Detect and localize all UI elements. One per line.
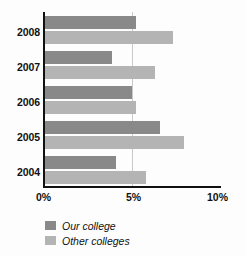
year-label-2007: 2007 (2, 61, 40, 73)
year-label-2008: 2008 (2, 26, 40, 38)
legend-item-other-colleges: Other colleges (45, 234, 130, 247)
category-axis: 2008 2007 2006 2005 2004 (0, 12, 40, 188)
bar-group-2008 (43, 15, 221, 45)
legend-swatch-other-colleges (45, 236, 56, 245)
year-label-2006: 2006 (2, 96, 40, 108)
bar-our-college-2007 (43, 51, 112, 64)
bar-our-college-2004 (43, 156, 116, 169)
value-axis: 0% 5% 10% (0, 191, 246, 207)
legend-swatch-our-college (45, 221, 56, 230)
bar-other-colleges-2004 (43, 171, 146, 184)
legend-label-our-college: Our college (62, 220, 116, 232)
year-label-2005: 2005 (2, 131, 40, 143)
bar-our-college-2008 (43, 16, 136, 29)
bar-group-2006 (43, 85, 221, 115)
bar-our-college-2005 (43, 121, 160, 134)
chart-legend: Our college Other colleges (45, 219, 130, 249)
bar-group-2007 (43, 50, 221, 80)
bar-other-colleges-2005 (43, 136, 184, 149)
x-tick-label-0: 0% (36, 191, 51, 203)
bar-other-colleges-2007 (43, 66, 155, 79)
bar-group-2004 (43, 155, 221, 185)
plot-area (43, 12, 221, 188)
bar-chart-figure: 2008 2007 2006 2005 2004 (0, 0, 246, 256)
x-tick-label-10: 10% (207, 191, 228, 203)
x-axis-line (43, 186, 221, 188)
legend-item-our-college: Our college (45, 219, 130, 232)
year-label-2004: 2004 (2, 166, 40, 178)
bar-our-college-2006 (43, 86, 132, 99)
legend-label-other-colleges: Other colleges (62, 235, 130, 247)
bar-group-2005 (43, 120, 221, 150)
x-tick-label-5: 5% (126, 191, 141, 203)
bar-other-colleges-2006 (43, 101, 136, 114)
bar-other-colleges-2008 (43, 31, 173, 44)
y-axis-line (43, 12, 45, 188)
